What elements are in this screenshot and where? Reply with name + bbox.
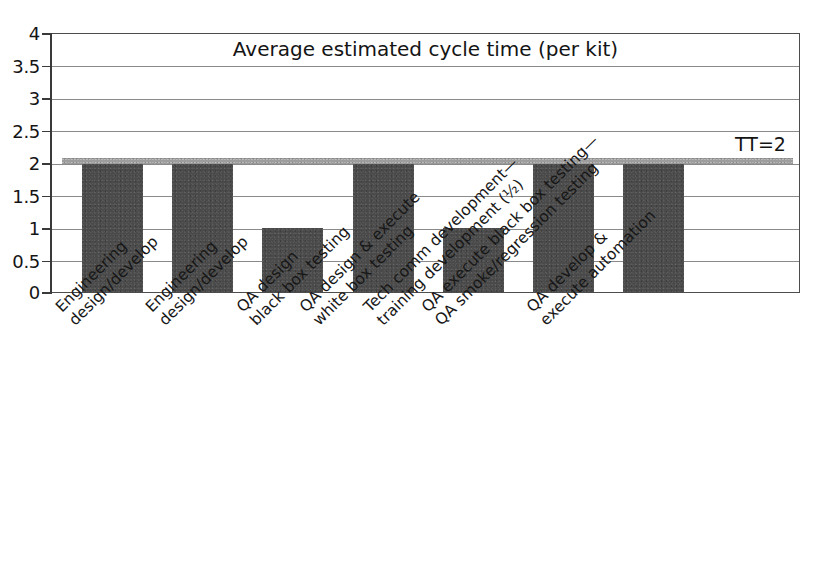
chart-title: Average estimated cycle time (per kit) bbox=[51, 38, 800, 60]
y-tick-label-3.5: 3.5 bbox=[0, 58, 40, 76]
gridline-1 bbox=[52, 229, 799, 230]
y-tick-label-1: 1 bbox=[0, 220, 40, 238]
gridline-2.5 bbox=[52, 131, 799, 132]
takt-time-label: TT=2 bbox=[735, 135, 786, 154]
y-tick-label-1.5: 1.5 bbox=[0, 188, 40, 206]
y-tick-mark-4 bbox=[42, 33, 51, 35]
takt-time-line bbox=[62, 158, 793, 164]
y-tick-label-0: 0 bbox=[0, 284, 40, 302]
y-tick-label-3: 3 bbox=[0, 90, 40, 108]
y-tick-mark-3 bbox=[42, 98, 51, 100]
y-tick-mark-1.5 bbox=[42, 196, 51, 198]
y-tick-mark-1 bbox=[42, 228, 51, 230]
gridline-3.5 bbox=[52, 66, 799, 67]
y-tick-mark-0.5 bbox=[42, 261, 51, 263]
y-tick-mark-2 bbox=[42, 163, 51, 165]
gridline-3 bbox=[52, 99, 799, 100]
y-tick-label-2.5: 2.5 bbox=[0, 123, 40, 141]
gridline-1.5 bbox=[52, 196, 799, 197]
chart-container: 4 3.5 3 2.5 2 1.5 1 0.5 0 Average estima… bbox=[0, 0, 819, 582]
y-tick-mark-0 bbox=[42, 292, 51, 294]
y-tick-mark-3.5 bbox=[42, 66, 51, 68]
y-tick-mark-2.5 bbox=[42, 131, 51, 133]
y-tick-label-4: 4 bbox=[0, 25, 40, 43]
y-tick-label-2: 2 bbox=[0, 155, 40, 173]
y-tick-label-0.5: 0.5 bbox=[0, 253, 40, 271]
